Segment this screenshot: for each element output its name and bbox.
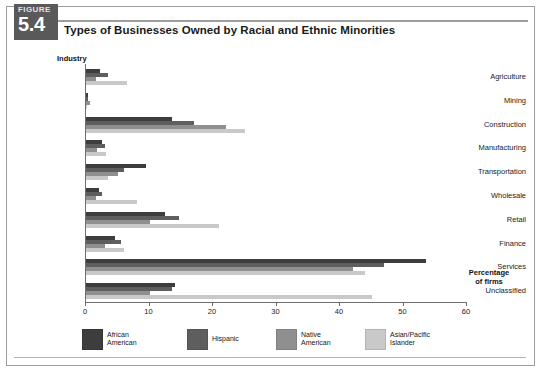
figure-container: FIGURE 5.4 Types of Businesses Owned by … (0, 0, 541, 372)
y-axis-tick-label: Wholesale (458, 192, 526, 200)
x-axis-tick-label: 40 (335, 307, 343, 316)
y-axis-tick-label: Manufacturing (458, 144, 526, 152)
x-axis-tick-label: 30 (271, 307, 279, 316)
figure-number-badge: FIGURE 5.4 (14, 4, 58, 40)
legend-swatch (276, 329, 297, 350)
legend-label: Asian/Pacific Islander (390, 331, 430, 348)
legend-swatch (187, 329, 208, 350)
x-axis-tick (403, 302, 404, 306)
figure-number: 5.4 (18, 14, 58, 35)
x-axis-tick-label: 10 (144, 307, 152, 316)
bar (86, 105, 87, 109)
x-axis-caption-line: of firms (452, 277, 526, 286)
legend-label: African American (107, 331, 137, 348)
legend-item[interactable]: Native American (276, 325, 331, 353)
legend-divider (14, 357, 526, 358)
x-axis-tick (85, 302, 86, 306)
legend-swatch (365, 329, 386, 350)
bar (86, 295, 372, 299)
legend-label: Hispanic (212, 335, 239, 344)
x-axis-tick-label: 0 (83, 307, 87, 316)
legend-item[interactable]: African American (82, 325, 137, 353)
legend-label: Native American (301, 331, 331, 348)
bar (86, 271, 365, 275)
legend-item[interactable]: Hispanic (187, 325, 239, 353)
x-axis-caption: Percentageof firms (452, 268, 526, 286)
y-axis-tick-label: Unclassified (458, 287, 526, 295)
legend-item[interactable]: Asian/Pacific Islander (365, 325, 430, 353)
x-axis-tick-label: 60 (462, 307, 470, 316)
y-axis-tick-label: Finance (458, 240, 526, 248)
badge-tail (14, 40, 20, 52)
x-axis-tick (149, 302, 150, 306)
bar (86, 81, 127, 85)
figure-title: Types of Businesses Owned by Racial and … (64, 24, 395, 36)
chart-legend: African AmericanHispanicNative AmericanA… (82, 325, 412, 353)
title-divider (58, 20, 528, 22)
x-axis-caption-line: Percentage (452, 268, 526, 277)
bar (86, 200, 137, 204)
bar (86, 129, 245, 133)
x-axis-tick (466, 302, 467, 306)
x-axis-tick (276, 302, 277, 306)
y-axis-title: Industry (57, 54, 85, 63)
y-axis-tick-label: Agriculture (458, 73, 526, 81)
bar (86, 152, 106, 156)
y-axis-tick-label: Construction (458, 121, 526, 129)
bar (86, 224, 219, 228)
x-axis-tick-label: 50 (398, 307, 406, 316)
y-axis-tick-label: Mining (458, 97, 526, 105)
x-axis-tick-label: 20 (208, 307, 216, 316)
bar (86, 176, 108, 180)
y-axis-tick-label: Transportation (458, 168, 526, 176)
x-axis-tick (339, 302, 340, 306)
x-axis-tick (212, 302, 213, 306)
legend-swatch (82, 329, 103, 350)
y-axis-tick-label: Retail (458, 216, 526, 224)
chart-plot-area: Industry AgricultureMiningConstructionMa… (14, 50, 526, 318)
bar (86, 248, 124, 252)
